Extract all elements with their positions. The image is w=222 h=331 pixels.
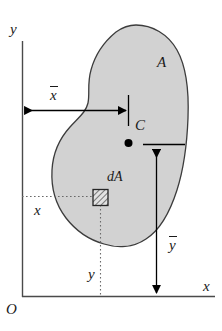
x-distance-label: x (34, 203, 41, 218)
y-axis-label: y (10, 22, 17, 37)
differential-area-element (93, 190, 108, 206)
area-label: A (157, 55, 166, 70)
centroid-diagram: y x O A C dA x y x y (0, 0, 222, 331)
area-region-shape (52, 25, 188, 247)
origin-label: O (6, 302, 17, 317)
ybar-overbar (169, 236, 177, 237)
x-axis-label: x (203, 279, 210, 294)
xbar-distance-label: x (50, 88, 57, 103)
centroid-label: C (135, 118, 145, 133)
differential-area-label: dA (107, 170, 123, 184)
centroid-point-dot (125, 139, 133, 147)
y-distance-label: y (88, 267, 95, 282)
diagram-canvas (0, 0, 222, 331)
xbar-letter: x (50, 87, 57, 103)
ybar-letter: y (169, 237, 176, 253)
ybar-distance-label: y (169, 238, 176, 253)
xbar-overbar (50, 86, 58, 87)
